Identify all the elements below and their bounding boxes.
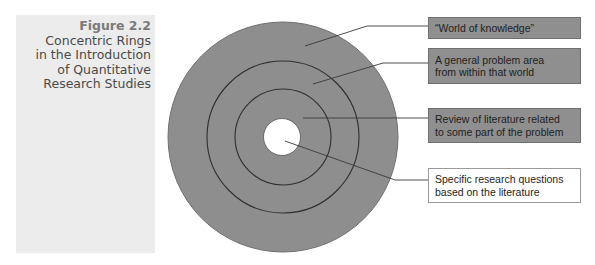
callout-text-line: A general problem area — [435, 54, 544, 67]
callout-world-of-knowledge: “World of knowledge” — [428, 17, 581, 39]
callout-text-line: “World of knowledge” — [435, 22, 534, 34]
callout-text-line: based on the literature — [435, 186, 563, 199]
callout-text-line: to some part of the problem — [435, 126, 563, 139]
callout-literature-review: Review of literature related to some par… — [428, 108, 581, 143]
callout-text-line: Specific research questions — [435, 173, 563, 186]
callout-research-questions: Specific research questions based on the… — [428, 168, 581, 203]
ring-core-research-questions — [264, 119, 301, 156]
callout-text-line: from within that world — [435, 66, 544, 79]
callout-text-line: Review of literature related — [435, 113, 563, 126]
callout-general-problem-area: A general problem area from within that … — [428, 48, 581, 84]
